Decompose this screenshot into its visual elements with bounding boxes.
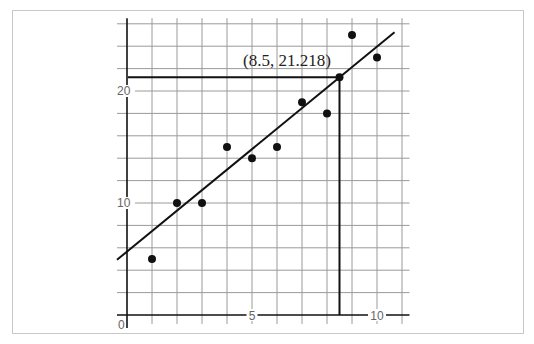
x-tick-label: 5 <box>249 309 256 323</box>
x-tick-label: 0 <box>118 318 125 332</box>
data-point <box>273 143 281 151</box>
data-point <box>173 199 181 207</box>
data-point <box>348 31 356 39</box>
y-tick-label: 10 <box>117 196 131 210</box>
x-tick-label: 10 <box>370 309 384 323</box>
y-tick-label: 20 <box>117 84 131 98</box>
annotation-label: (8.5, 21.218) <box>243 51 331 70</box>
data-point <box>323 109 331 117</box>
scatter-chart: 05101020 (8.5, 21.218) <box>0 0 534 344</box>
data-point <box>148 255 156 263</box>
data-point <box>248 154 256 162</box>
data-point <box>198 199 206 207</box>
annotated-point <box>336 73 344 81</box>
data-point <box>223 143 231 151</box>
data-point <box>298 98 306 106</box>
data-point <box>373 53 381 61</box>
